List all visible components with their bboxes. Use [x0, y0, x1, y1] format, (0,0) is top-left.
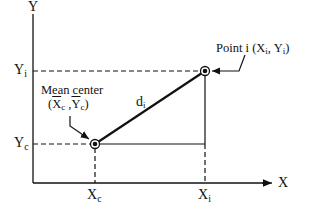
tick-xi: Xi [198, 188, 211, 204]
distance-label: di [136, 94, 146, 111]
y-axis-label: Y [28, 0, 38, 14]
point-i-label: Point i (Xi, Yi) [216, 42, 289, 57]
point-i-leader-arrow [212, 55, 245, 71]
tick-yc: Yc [14, 136, 29, 152]
mean-center-leader-arrow [70, 116, 89, 139]
distance-line [95, 71, 205, 144]
point-i-marker [201, 67, 210, 76]
tick-xc: Xc [87, 188, 102, 204]
tick-yi: Yi [14, 63, 27, 79]
mean-center-label: Mean center (Xc ,Yc) [41, 84, 103, 113]
x-axis-label: X [278, 176, 288, 190]
mean-center-marker [91, 140, 100, 149]
